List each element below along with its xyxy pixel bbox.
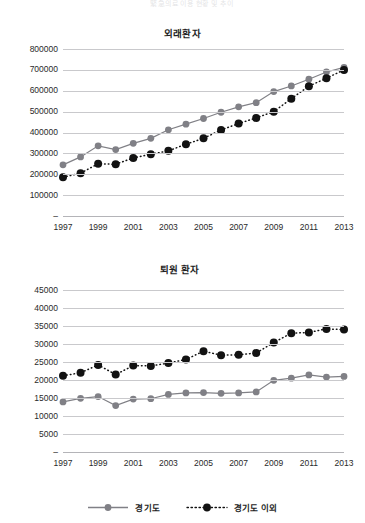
gridline bbox=[63, 174, 344, 175]
y-axis-tick-label: 35000 bbox=[6, 322, 58, 330]
data-point bbox=[235, 390, 242, 397]
data-point bbox=[200, 347, 208, 355]
data-point bbox=[287, 329, 295, 337]
gridline bbox=[63, 290, 344, 291]
data-point bbox=[253, 99, 260, 106]
y-axis-tick-label: 500000 bbox=[6, 107, 58, 115]
gridline bbox=[63, 344, 344, 345]
plot-area-outpatients bbox=[63, 49, 344, 216]
data-point bbox=[252, 349, 260, 357]
data-point bbox=[217, 351, 225, 359]
x-axis-tick-label: 2007 bbox=[229, 222, 248, 232]
y-axis-labels-outpatients: 8000007000006000005000004000003000002000… bbox=[0, 22, 58, 252]
x-axis-tick-label: 2003 bbox=[159, 222, 178, 232]
data-point bbox=[77, 154, 84, 161]
data-point bbox=[59, 372, 67, 380]
y-axis-tick-label: 400000 bbox=[6, 128, 58, 136]
gridline bbox=[63, 195, 344, 196]
y-axis-tick-label: 800000 bbox=[6, 45, 58, 53]
x-axis-tick-label: 2009 bbox=[264, 458, 283, 468]
gridline bbox=[63, 49, 344, 50]
data-point bbox=[200, 389, 207, 396]
y-axis-tick-label: 700000 bbox=[6, 65, 58, 73]
x-axis-line bbox=[63, 452, 344, 453]
gridline bbox=[63, 380, 344, 381]
y-axis-tick-label: 300000 bbox=[6, 149, 58, 157]
gridline bbox=[63, 91, 344, 92]
data-point bbox=[322, 74, 330, 82]
x-axis-tick-label: 1997 bbox=[54, 222, 73, 232]
x-axis-tick-label: 2005 bbox=[194, 222, 213, 232]
data-point bbox=[182, 140, 190, 148]
y-axis-labels-discharged: 4500040000350003000025000200001500010000… bbox=[0, 258, 58, 488]
legend-swatch-dotted-icon bbox=[186, 502, 228, 513]
data-point bbox=[112, 402, 119, 409]
data-point bbox=[60, 161, 67, 168]
data-point bbox=[218, 390, 225, 397]
data-point bbox=[305, 328, 313, 336]
data-point bbox=[200, 134, 208, 142]
data-point bbox=[112, 371, 120, 379]
plot-area-discharged bbox=[63, 290, 344, 452]
gridline bbox=[63, 416, 344, 417]
legend-label-outside-gyeonggi: 경기도 이외 bbox=[234, 501, 278, 513]
x-axis-tick-label: 2003 bbox=[159, 458, 178, 468]
gridline bbox=[63, 133, 344, 134]
data-point bbox=[95, 142, 102, 149]
x-axis-tick-label: 2011 bbox=[300, 222, 318, 232]
data-point bbox=[164, 359, 172, 367]
y-axis-tick-label: 5000 bbox=[6, 430, 58, 438]
data-point bbox=[77, 369, 85, 377]
legend-label-gyeonggi: 경기도 bbox=[135, 501, 160, 513]
data-point bbox=[112, 146, 119, 153]
data-point bbox=[305, 76, 312, 83]
x-axis-tick-label: 1999 bbox=[89, 222, 108, 232]
legend-swatch-solid-icon bbox=[87, 502, 129, 513]
x-axis-line bbox=[63, 216, 344, 217]
x-axis-tick-label: 2013 bbox=[335, 458, 354, 468]
gridline bbox=[63, 112, 344, 113]
data-point bbox=[147, 135, 154, 142]
gridline bbox=[63, 362, 344, 363]
data-point bbox=[235, 103, 242, 110]
cut-off-header-text: 緊急의료 이용 현황 및 추이 bbox=[150, 0, 360, 7]
y-axis-tick-label: 600000 bbox=[6, 86, 58, 94]
y-axis-tick-label: 100000 bbox=[6, 191, 58, 199]
legend-item-outside-gyeonggi[interactable]: 경기도 이외 bbox=[186, 501, 278, 513]
data-point bbox=[147, 362, 155, 370]
x-axis-tick-label: 2001 bbox=[124, 458, 143, 468]
legend-item-gyeonggi[interactable]: 경기도 bbox=[87, 501, 160, 513]
series-svg-discharged bbox=[63, 290, 344, 452]
chart-page: 緊急의료 이용 현황 및 추이 외래환자 8000007000006000005… bbox=[0, 0, 365, 523]
data-point bbox=[305, 82, 313, 90]
data-point bbox=[235, 120, 243, 128]
data-point bbox=[183, 121, 190, 128]
data-point bbox=[94, 160, 102, 168]
y-axis-tick-label: 25000 bbox=[6, 358, 58, 366]
data-point bbox=[129, 154, 137, 162]
gridline bbox=[63, 398, 344, 399]
y-axis-tick-label: 200000 bbox=[6, 170, 58, 178]
series-line-2 bbox=[63, 70, 344, 177]
data-point bbox=[270, 339, 278, 347]
gridline bbox=[63, 308, 344, 309]
data-point bbox=[77, 169, 85, 177]
data-point bbox=[60, 399, 67, 406]
data-point bbox=[165, 391, 172, 398]
x-axis-tick-label: 2001 bbox=[124, 222, 143, 232]
x-axis-tick-label: 2013 bbox=[335, 222, 354, 232]
y-axis-tick-label: 15000 bbox=[6, 394, 58, 402]
gridline bbox=[63, 153, 344, 154]
chart-outpatients: 외래환자 80000070000060000050000040000030000… bbox=[0, 22, 365, 252]
data-point bbox=[287, 95, 295, 103]
chart-legend: 경기도 경기도 이외 bbox=[0, 497, 365, 517]
y-axis-tick-label: 20000 bbox=[6, 376, 58, 384]
x-axis-tick-label: 2005 bbox=[194, 458, 213, 468]
data-point bbox=[130, 140, 137, 147]
data-point bbox=[288, 83, 295, 90]
data-point bbox=[235, 351, 243, 359]
y-axis-tick-label: – bbox=[6, 212, 58, 220]
data-point bbox=[200, 115, 207, 122]
y-axis-tick-label: 40000 bbox=[6, 304, 58, 312]
data-point bbox=[305, 372, 312, 379]
